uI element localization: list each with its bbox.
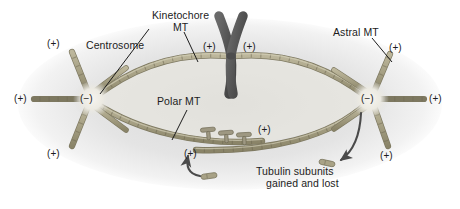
label-kinetochore-mt: Kinetochore MT bbox=[152, 10, 209, 34]
polarity-plus-right-astral-lower: (+) bbox=[380, 150, 393, 161]
label-centrosome: Centrosome bbox=[86, 40, 144, 52]
spindle-diagram-figure: Centrosome Kinetochore MT Polar MT Astra… bbox=[0, 0, 460, 209]
polarity-plus-right-astral-upper: (+) bbox=[389, 42, 402, 53]
polarity-minus-left-centrosome-minus: (−) bbox=[80, 93, 93, 104]
polarity-plus-left-astral-lower: (+) bbox=[47, 148, 60, 159]
polarity-plus-kinetochore-right: (+) bbox=[243, 41, 256, 52]
label-kinetochore-mt-line2: MT bbox=[152, 22, 209, 34]
polarity-plus-polar-left-lower: (+) bbox=[184, 148, 197, 159]
polarity-plus-left-astral-upper: (+) bbox=[47, 38, 60, 49]
label-kinetochore-mt-line1: Kinetochore bbox=[152, 10, 209, 22]
polarity-minus-right-centrosome-minus: (−) bbox=[361, 93, 374, 104]
label-tubulin-caption: Tubulin subunits gained and lost bbox=[256, 166, 339, 190]
label-tubulin-line1: Tubulin subunits bbox=[256, 166, 339, 178]
polarity-plus-polar-right-upper: (+) bbox=[258, 124, 271, 135]
polarity-plus-kinetochore-left: (+) bbox=[203, 41, 216, 52]
polarity-plus-right-astral-right: (+) bbox=[429, 93, 442, 104]
label-astral-mt: Astral MT bbox=[333, 27, 379, 39]
label-tubulin-line2: gained and lost bbox=[256, 178, 339, 190]
diagram-canvas bbox=[0, 0, 460, 209]
label-polar-mt: Polar MT bbox=[157, 96, 200, 108]
polarity-plus-left-astral-left: (+) bbox=[14, 93, 27, 104]
